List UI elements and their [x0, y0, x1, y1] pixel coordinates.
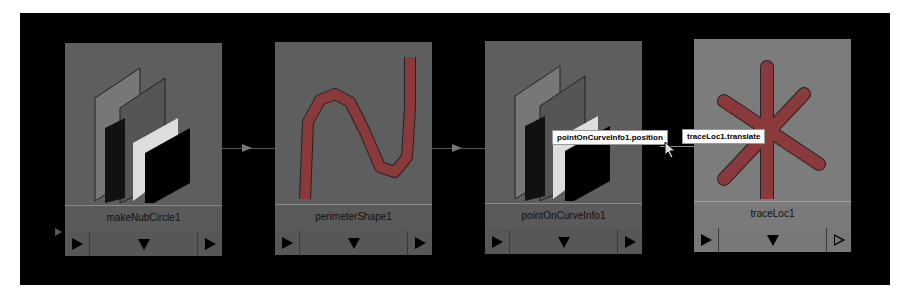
output-toggle-button[interactable]: [198, 232, 222, 256]
node-name: traceLoc1: [694, 201, 851, 228]
connection-arrow-icon: [452, 144, 462, 152]
node-traceLoc1[interactable]: traceLoc1: [694, 39, 851, 252]
chevron-down-icon: [138, 239, 150, 250]
expand-button[interactable]: [90, 232, 198, 256]
hypergraph-editor[interactable]: makeNubCircle1 perimeterShape1: [20, 13, 890, 285]
chevron-down-icon: [558, 237, 570, 248]
input-toggle-button[interactable]: [275, 231, 300, 255]
chevron-down-icon: [767, 235, 779, 246]
destination-attribute-label: traceLoc1.translate: [682, 129, 765, 144]
node-pointOnCurveInfo1[interactable]: pointOnCurveInfo1: [485, 41, 642, 254]
node-name: perimeterShape1: [275, 204, 432, 231]
source-attribute-label: pointOnCurveInfo1.position: [552, 130, 668, 145]
locator-icon: [694, 39, 851, 199]
play-icon: [625, 236, 636, 248]
node-makeNubCircle1[interactable]: makeNubCircle1: [65, 43, 222, 256]
node-perimeterShape1[interactable]: perimeterShape1: [275, 42, 432, 255]
play-icon: [205, 238, 216, 250]
play-icon: [701, 234, 712, 246]
node-name: pointOnCurveInfo1: [485, 203, 642, 230]
play-icon: [415, 237, 426, 249]
expand-button[interactable]: [510, 230, 618, 254]
nurbs-planes-icon: [485, 41, 642, 201]
input-toggle-button[interactable]: [65, 232, 90, 256]
input-toggle-button[interactable]: [485, 230, 510, 254]
expand-button[interactable]: [300, 231, 408, 255]
nurbs-planes-icon: [65, 43, 222, 203]
play-icon: [492, 236, 503, 248]
output-toggle-button[interactable]: [827, 228, 851, 252]
node-name: makeNubCircle1: [65, 205, 222, 232]
mouse-cursor-icon: [664, 141, 678, 159]
output-toggle-button[interactable]: [408, 231, 432, 255]
output-toggle-button[interactable]: [618, 230, 642, 254]
play-icon: [282, 237, 293, 249]
expand-button[interactable]: [719, 228, 827, 252]
curve-icon: [275, 42, 432, 202]
connection-arrow-icon: [242, 144, 252, 152]
input-toggle-button[interactable]: [694, 228, 719, 252]
chevron-down-icon: [348, 238, 360, 249]
